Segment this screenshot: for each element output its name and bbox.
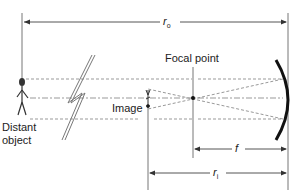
distant-object-figure-icon: [17, 78, 28, 115]
r-i-arrow-left-icon: [149, 171, 155, 176]
focal-point-label: Focal point: [165, 52, 219, 64]
r-i-arrow-right-icon: [281, 171, 287, 176]
image-figure-icon: [146, 90, 150, 108]
distant-object-label-line2: object: [2, 134, 31, 146]
r-i-label: ri: [213, 166, 218, 183]
f-arrow-right-icon: [281, 147, 287, 152]
f-label: f: [235, 142, 238, 154]
r-o-arrow-right-icon: [281, 20, 287, 25]
diagram-canvas: [0, 0, 298, 190]
r-o-arrow-left-icon: [24, 20, 30, 25]
image-label: Image: [112, 102, 143, 114]
focal-point-dot: [191, 96, 195, 100]
mirror-diagram: ro Focal point Image Distant object f ri: [0, 0, 298, 190]
concave-mirror: [276, 60, 288, 140]
r-o-label: ro: [163, 15, 171, 32]
distant-object-label-line1: Distant: [2, 121, 36, 133]
f-arrow-left-icon: [194, 147, 200, 152]
